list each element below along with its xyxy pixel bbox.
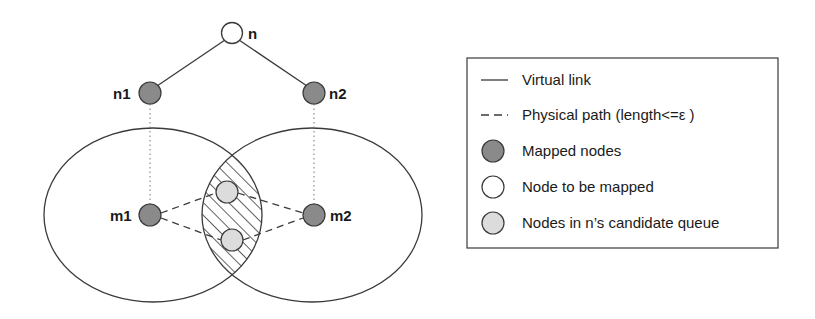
candidate-node-2 [221,229,243,251]
legend-label-physical-path: Physical path (length<=ε ) [522,106,695,123]
label-n: n [248,25,257,42]
label-n2: n2 [329,85,347,102]
legend-white-circle-icon [482,176,504,198]
legend-label-node-to-be-mapped: Node to be mapped [522,178,654,195]
label-m2: m2 [330,207,352,224]
legend-label-candidate-queue: Nodes in n’s candidate queue [522,214,719,231]
node-m1 [139,204,161,226]
node-n1 [139,82,161,104]
candidate-node-1 [216,181,238,203]
legend: Virtual link Physical path (length<=ε ) … [467,58,778,248]
virtual-link-n-n1 [157,40,225,86]
node-n [222,23,243,44]
node-n2 [303,82,325,104]
legend-label-virtual-link: Virtual link [522,71,591,88]
label-m1: m1 [110,207,132,224]
label-n1: n1 [113,85,131,102]
diagram-canvas: n n1 n2 m1 m2 Virtual link Physical path… [0,0,815,319]
legend-label-mapped-nodes: Mapped nodes [522,142,621,159]
legend-light-circle-icon [482,212,504,234]
virtual-link-n-n2 [239,40,307,86]
node-m2 [303,204,325,226]
legend-dark-circle-icon [482,140,504,162]
